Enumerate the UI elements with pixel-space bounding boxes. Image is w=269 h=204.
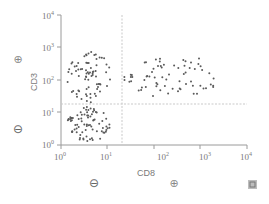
x-tick-label: 100	[54, 151, 66, 162]
data-points	[67, 51, 215, 142]
x-ticks	[61, 145, 247, 149]
scatter-plot: 104 103 102 101 100 100 101 102 103 104 …	[0, 0, 269, 204]
y-axis-label: CD3	[29, 73, 39, 91]
x-tick-label: 101	[100, 151, 112, 162]
y-tick-label: 101	[42, 107, 54, 118]
x-axis-label: CD8	[137, 168, 155, 178]
x-tick-label: 102	[157, 151, 169, 162]
y-positive-icon: ⊕	[13, 53, 22, 66]
y-negative-icon: ⊖	[13, 122, 23, 136]
y-ticks	[57, 15, 61, 145]
corner-badge-icon	[248, 180, 257, 189]
y-tick-label: 103	[42, 42, 54, 53]
x-tick-label: 104	[240, 151, 252, 162]
y-tick-label: 100	[42, 139, 54, 150]
x-tick-label: 103	[199, 151, 211, 162]
x-positive-icon: ⊕	[169, 177, 178, 190]
y-tick-label: 102	[42, 75, 54, 86]
y-tick-label: 104	[42, 10, 54, 21]
x-negative-icon: ⊖	[89, 176, 99, 190]
